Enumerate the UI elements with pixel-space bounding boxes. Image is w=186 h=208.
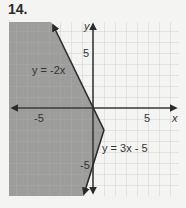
x-axis-label: x [171,112,178,124]
tick-y-neg5: -5 [80,159,90,171]
tick-y-5: 5 [83,47,89,59]
equation-label-1: y = -2x [32,64,66,76]
graph: y x 5 -5 -5 5 y = -2x y = 3x - 5 [0,0,186,208]
tick-x-neg5: -5 [34,112,44,124]
equation-label-2: y = 3x - 5 [102,142,148,154]
tick-x-5: 5 [144,112,150,124]
